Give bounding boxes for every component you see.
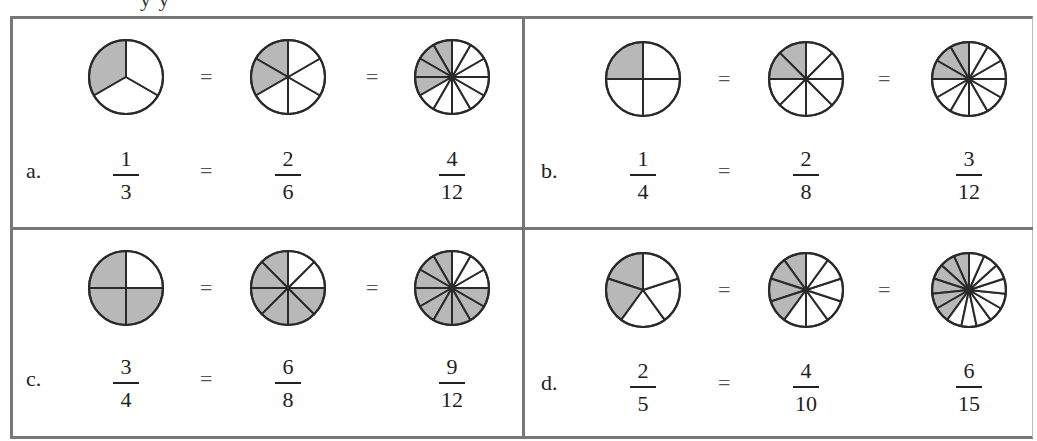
numerator: 2 <box>258 146 318 172</box>
denominator: 8 <box>776 179 836 205</box>
numerator: 9 <box>422 354 482 380</box>
equals-sign: = <box>718 66 730 92</box>
denominator: 4 <box>613 179 673 205</box>
numerator: 4 <box>422 146 482 172</box>
numerator: 1 <box>613 146 673 172</box>
numerator: 1 <box>96 146 156 172</box>
fraction: 9 12 <box>422 354 482 413</box>
equals-sign: = <box>200 158 212 184</box>
fraction-bar <box>275 382 301 384</box>
denominator: 3 <box>96 179 156 205</box>
fraction-circle-icon <box>603 250 683 330</box>
numerator: 4 <box>776 358 836 384</box>
fraction-bar <box>630 386 656 388</box>
numerator: 6 <box>939 358 999 384</box>
denominator: 6 <box>258 179 318 205</box>
fraction-bar <box>793 386 819 388</box>
fraction: 4 10 <box>776 358 836 417</box>
fraction: 3 4 <box>96 354 156 413</box>
equals-sign: = <box>200 275 212 301</box>
fraction-circle-icon <box>248 248 328 328</box>
cropped-heading-text: y y <box>140 0 171 12</box>
numerator: 2 <box>613 358 673 384</box>
fraction-circle-icon <box>86 248 166 328</box>
denominator: 12 <box>939 179 999 205</box>
fraction-circle-icon <box>248 37 328 117</box>
equals-sign: = <box>718 370 730 396</box>
denominator: 10 <box>776 391 836 417</box>
fraction-circle-icon <box>766 250 846 330</box>
denominator: 15 <box>939 391 999 417</box>
fraction-bar <box>630 174 656 176</box>
numerator: 2 <box>776 146 836 172</box>
fraction-bar <box>439 382 465 384</box>
denominator: 8 <box>258 387 318 413</box>
problem-label: d. <box>541 370 558 396</box>
row-divider <box>10 227 1033 230</box>
fraction-circle-icon <box>412 248 492 328</box>
denominator: 4 <box>96 387 156 413</box>
fraction-bar <box>439 174 465 176</box>
fraction-circle-icon <box>603 39 683 119</box>
fraction-circle-icon <box>766 39 846 119</box>
numerator: 3 <box>939 146 999 172</box>
fraction: 6 8 <box>258 354 318 413</box>
equals-sign: = <box>718 158 730 184</box>
equals-sign: = <box>878 66 890 92</box>
fraction: 1 3 <box>96 146 156 205</box>
fraction: 2 5 <box>613 358 673 417</box>
fraction-bar <box>275 174 301 176</box>
fraction-bar <box>956 174 982 176</box>
equals-sign: = <box>366 64 378 90</box>
fraction-bar <box>793 174 819 176</box>
numerator: 6 <box>258 354 318 380</box>
equals-sign: = <box>366 275 378 301</box>
fraction: 6 15 <box>939 358 999 417</box>
fraction-bar <box>113 382 139 384</box>
fraction-bar <box>956 386 982 388</box>
problem-label: a. <box>26 158 41 184</box>
fraction: 3 12 <box>939 146 999 205</box>
fraction: 4 12 <box>422 146 482 205</box>
fraction-circle-icon <box>412 37 492 117</box>
denominator: 12 <box>422 179 482 205</box>
equals-sign: = <box>200 64 212 90</box>
equals-sign: = <box>200 366 212 392</box>
problem-label: c. <box>26 366 41 392</box>
denominator: 5 <box>613 391 673 417</box>
equals-sign: = <box>878 277 890 303</box>
fraction-circle-icon <box>929 39 1009 119</box>
numerator: 3 <box>96 354 156 380</box>
fraction: 2 8 <box>776 146 836 205</box>
fraction: 1 4 <box>613 146 673 205</box>
equals-sign: = <box>718 277 730 303</box>
fraction: 2 6 <box>258 146 318 205</box>
fraction-bar <box>113 174 139 176</box>
fraction-circle-icon <box>929 250 1009 330</box>
problem-label: b. <box>541 158 558 184</box>
fraction-circle-icon <box>86 37 166 117</box>
denominator: 12 <box>422 387 482 413</box>
